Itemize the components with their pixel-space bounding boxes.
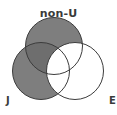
set-label-j: J xyxy=(6,96,10,106)
venn-diagram-figure: non-U J E xyxy=(0,0,117,115)
set-label-nonu: non-U xyxy=(0,8,117,19)
set-label-e: E xyxy=(109,96,116,106)
